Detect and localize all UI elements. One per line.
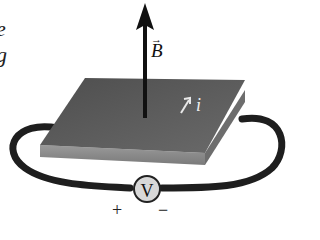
plus-terminal-label: + [112,200,122,220]
magnetic-field-label: B [151,40,163,62]
current-label: i [196,95,201,116]
voltmeter-label: V [134,181,160,202]
minus-terminal-label: − [158,200,168,220]
